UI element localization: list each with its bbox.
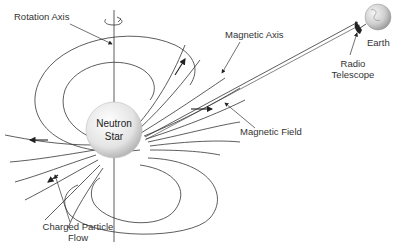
radio-telescope-label: Radio Telescope [328,58,378,80]
earth-label: Earth [367,37,390,48]
magnetic-axis-label: Magnetic Axis [225,29,284,40]
magnetic-field-label: Magnetic Field [240,126,302,137]
neutron-star-label-line2: Star [84,130,144,143]
rotation-arrow-icon [105,17,122,25]
pulsar-diagram [0,0,400,245]
earth-globe-icon [365,4,391,30]
neutron-star-label-line1: Neutron [84,117,144,130]
neutron-star-label: Neutron Star [84,117,144,143]
rotation-axis-label: Rotation Axis [14,11,69,22]
radio-telescope-label-line2: Telescope [328,69,378,80]
charged-particle-label-line2: Flow [38,232,118,243]
charged-particle-label-line1: Charged Particle [38,221,118,232]
radio-telescope-label-line1: Radio [328,58,378,69]
charged-particle-flow-label: Charged Particle Flow [38,221,118,243]
radio-telescope-icon [355,21,366,34]
